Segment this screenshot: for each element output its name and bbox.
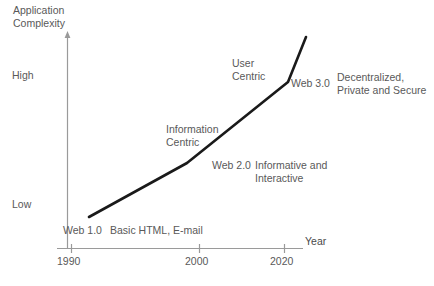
x-tick-label-2000: 2000: [185, 255, 208, 268]
annotation-information-centric: Information Centric: [166, 123, 219, 148]
y-axis-arrow-icon: [65, 31, 71, 38]
y-axis-title: Application Complexity: [13, 4, 65, 29]
annotation-web1-description: Basic HTML, E-mail: [110, 224, 203, 237]
y-tick-label-high: High: [12, 69, 34, 82]
annotation-web2-key: Web 2.0: [212, 159, 251, 172]
x-axis: [57, 244, 303, 253]
x-tick-label-2020: 2020: [270, 255, 293, 268]
y-axis: [65, 31, 71, 249]
annotation-web3-description: Decentralized, Private and Secure: [337, 71, 426, 96]
web-evolution-chart: Application Complexity High Low 1990 200…: [0, 0, 434, 286]
x-axis-title: Year: [305, 235, 326, 248]
annotation-web3-key: Web 3.0: [291, 77, 330, 90]
x-tick-label-1990: 1990: [57, 255, 80, 268]
annotation-user-centric: User Centric: [232, 57, 265, 82]
y-tick-label-low: Low: [12, 198, 31, 211]
annotation-web1-key: Web 1.0: [63, 224, 102, 237]
annotation-web2-description: Informative and Interactive: [255, 159, 327, 184]
